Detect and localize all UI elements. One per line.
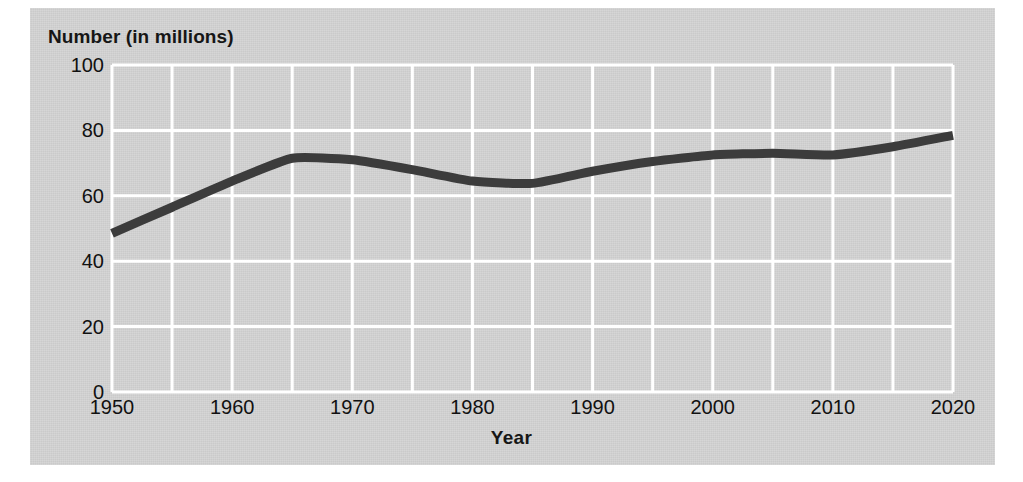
- x-axis-tick-labels: 19501960197019801990200020102020: [0, 0, 1023, 482]
- x-tick-label: 2010: [811, 396, 856, 419]
- x-tick-label: 2020: [931, 396, 976, 419]
- x-tick-label: 1980: [450, 396, 495, 419]
- x-axis-title: Year: [0, 427, 1023, 449]
- x-tick-label: 1970: [330, 396, 375, 419]
- x-tick-label: 1950: [90, 396, 135, 419]
- x-tick-label: 2000: [690, 396, 735, 419]
- x-tick-label: 1960: [210, 396, 255, 419]
- x-tick-label: 1990: [570, 396, 615, 419]
- chart-figure: Number (in millions) 020406080100 195019…: [0, 0, 1023, 482]
